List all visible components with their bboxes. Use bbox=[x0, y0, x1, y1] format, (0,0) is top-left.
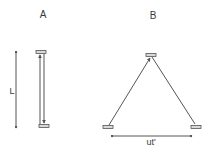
panel-b: B ut' bbox=[103, 10, 201, 147]
photon-path-diagonal-down bbox=[152, 57, 195, 124]
bottom-right-mirror-b bbox=[191, 126, 201, 129]
bottom-mirror-a bbox=[39, 125, 49, 128]
panel-b-title: B bbox=[150, 10, 157, 21]
length-label: L bbox=[9, 86, 14, 96]
light-clock-diagram: A L B ut' bbox=[0, 0, 213, 153]
top-mirror-b bbox=[146, 54, 156, 57]
panel-a-title: A bbox=[40, 9, 47, 20]
photon-path-diagonal-up bbox=[109, 58, 150, 125]
displacement-label: ut' bbox=[146, 137, 156, 147]
length-dimension: L bbox=[9, 52, 16, 127]
displacement-dimension: ut' bbox=[112, 136, 191, 147]
bottom-left-mirror-b bbox=[103, 126, 113, 129]
top-mirror-a bbox=[36, 51, 46, 54]
panel-a: A L bbox=[9, 9, 49, 128]
